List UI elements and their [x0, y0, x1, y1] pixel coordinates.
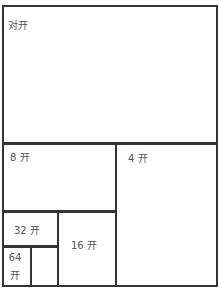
- label-4kai: 4 开: [128, 150, 148, 165]
- label-duikai: 对开: [8, 17, 28, 32]
- label-32kai: 32 开: [14, 222, 40, 237]
- region-duikai: [2, 5, 218, 144]
- label-16kai: 16 开: [71, 237, 97, 252]
- region-64kai-second: [30, 246, 59, 287]
- label-8kai: 8 开: [10, 149, 30, 164]
- label-64kai-line1: 64: [7, 248, 23, 267]
- label-64kai-line2: 开: [7, 266, 23, 285]
